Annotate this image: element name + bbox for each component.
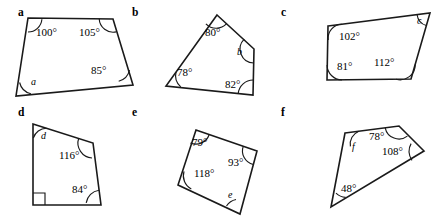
- quadrilateral-e: [178, 130, 257, 214]
- angle-label-b-82: 82°: [225, 78, 240, 90]
- angle-label-e-unknown: e: [228, 189, 233, 200]
- item-letter-d: d: [18, 106, 25, 118]
- angle-label-c-112: 112°: [374, 56, 395, 68]
- angle-label-e-118: 118°: [194, 167, 215, 179]
- figures-svg: a b c d e f 100° 105° 85° a 80° b 82° 78…: [0, 0, 436, 221]
- angle-label-a-85: 85°: [91, 64, 106, 76]
- angle-label-b-unknown: b: [237, 46, 242, 57]
- angle-label-c-unknown: c: [417, 15, 422, 26]
- item-letter-c: c: [281, 6, 286, 18]
- angle-label-f-78: 78°: [369, 130, 384, 142]
- angle-label-b-78: 78°: [177, 66, 192, 78]
- item-letter-f: f: [281, 106, 285, 118]
- angle-label-c-81: 81°: [337, 60, 352, 72]
- angle-label-e-93: 93°: [228, 156, 243, 168]
- angle-label-b-80: 80°: [205, 26, 220, 38]
- angle-label-e-79: 79°: [192, 136, 207, 148]
- angle-label-a-unknown: a: [31, 76, 36, 87]
- worksheet-figure-sheet: a b c d e f 100° 105° 85° a 80° b 82° 78…: [0, 0, 436, 221]
- angle-label-c-102: 102°: [339, 30, 360, 42]
- angle-label-d-116: 116°: [59, 149, 80, 161]
- angle-label-a-100: 100°: [36, 26, 57, 38]
- item-letter-b: b: [132, 6, 138, 18]
- angle-label-a-105: 105°: [79, 26, 100, 38]
- angle-label-f-108: 108°: [382, 145, 403, 157]
- figure-e: [178, 130, 257, 214]
- item-letter-e: e: [132, 106, 137, 118]
- angle-label-d-84: 84°: [72, 183, 87, 195]
- item-letter-a: a: [18, 6, 24, 18]
- angle-label-f-48: 48°: [341, 182, 356, 194]
